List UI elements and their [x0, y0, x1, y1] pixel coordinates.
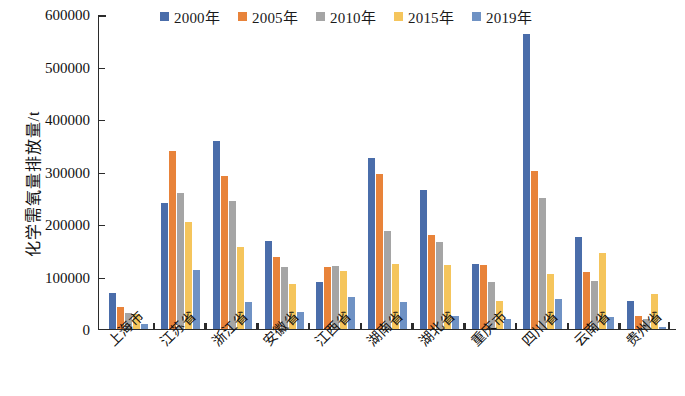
x-label-cell: 上海市	[102, 330, 154, 396]
bar-2000年-四川省[interactable]	[523, 34, 530, 329]
x-tick-mark	[308, 323, 311, 330]
bar-group-江西省	[310, 15, 362, 329]
bar-2005年-湖南省[interactable]	[376, 174, 383, 329]
bar-group-安徽省	[258, 15, 310, 329]
x-tick-mark	[411, 323, 414, 330]
x-axis-labels: 上海市江苏省浙江省安徽省江西省湖南省湖北省重庆市四川省云南省贵州省	[98, 330, 676, 396]
bar-group-上海市	[103, 15, 155, 329]
plot-area	[98, 15, 676, 330]
bar-group-湖南省	[362, 15, 414, 329]
y-tick-label: 200000	[45, 217, 90, 234]
x-label-cell: 江西省	[309, 330, 361, 396]
bar-group-湖北省	[413, 15, 465, 329]
bar-group-四川省	[517, 15, 569, 329]
x-tick-mark	[567, 323, 570, 330]
x-label-cell: 重庆市	[465, 330, 517, 396]
x-tick-mark	[360, 323, 363, 330]
bar-2000年-湖北省[interactable]	[420, 190, 427, 329]
bar-group-贵州省	[620, 15, 672, 329]
bar-group-浙江省	[206, 15, 258, 329]
bar-group-云南省	[569, 15, 621, 329]
bar-2000年-重庆市[interactable]	[472, 264, 479, 329]
x-tick-mark	[618, 323, 621, 330]
y-tick-label: 0	[83, 322, 91, 339]
bar-2005年-浙江省[interactable]	[221, 176, 228, 329]
x-tick-mark	[463, 323, 466, 330]
y-tick-label: 500000	[45, 59, 90, 76]
bar-2000年-安徽省[interactable]	[265, 241, 272, 329]
x-tick-mark	[515, 323, 518, 330]
x-label-cell: 江苏省	[154, 330, 206, 396]
x-label-cell: 贵州省	[620, 330, 672, 396]
y-axis-ticks: 6000005000004000003000002000001000000	[0, 0, 100, 396]
x-label-cell: 浙江省	[206, 330, 258, 396]
y-tick-label: 600000	[45, 7, 90, 24]
x-label-cell: 云南省	[568, 330, 620, 396]
bar-2000年-浙江省[interactable]	[213, 141, 220, 329]
x-tick-mark	[256, 323, 259, 330]
bar-2005年-四川省[interactable]	[531, 171, 538, 329]
bar-2019年-上海市[interactable]	[141, 324, 148, 329]
x-label-cell: 四川省	[517, 330, 569, 396]
bar-2000年-江苏省[interactable]	[161, 203, 168, 329]
bar-groups	[99, 15, 676, 329]
x-tick-mark	[204, 323, 207, 330]
bar-group-重庆市	[465, 15, 517, 329]
x-tick-mark	[153, 323, 156, 330]
y-tick-label: 400000	[45, 112, 90, 129]
bar-2019年-贵州省[interactable]	[659, 327, 666, 329]
bar-2000年-湖南省[interactable]	[368, 158, 375, 329]
chart-container: 2000年2005年2010年2015年2019年 化学需氧量排放量/t 600…	[0, 0, 685, 396]
x-label-cell: 湖北省	[413, 330, 465, 396]
y-tick-label: 100000	[45, 269, 90, 286]
x-label-cell: 安徽省	[257, 330, 309, 396]
x-label-cell: 湖南省	[361, 330, 413, 396]
y-tick-label: 300000	[45, 164, 90, 181]
bar-2000年-云南省[interactable]	[575, 237, 582, 329]
bar-group-江苏省	[155, 15, 207, 329]
bar-2005年-江苏省[interactable]	[169, 151, 176, 329]
